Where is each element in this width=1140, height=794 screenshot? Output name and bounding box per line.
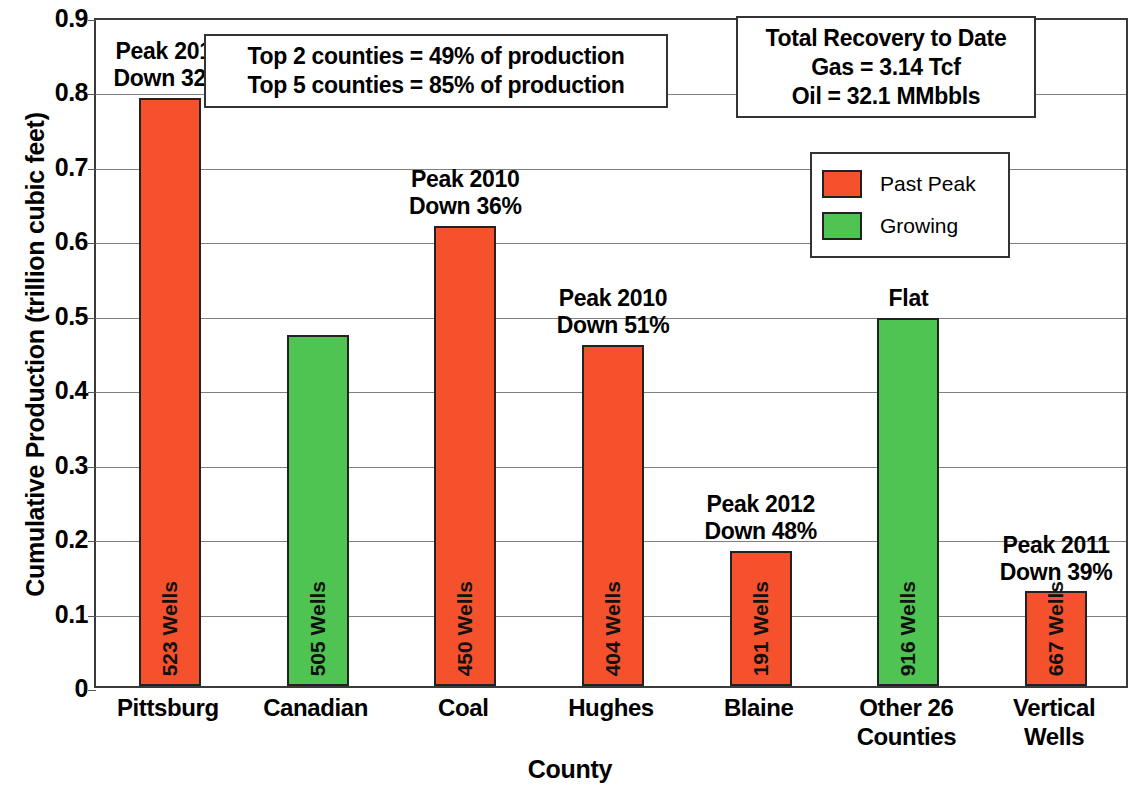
x-tick-line1: Canadian <box>242 694 390 723</box>
bar[interactable]: 191 Wells <box>730 551 792 686</box>
y-axis-tick-mark <box>88 616 96 617</box>
bar-annotation-line2: Down 36% <box>409 193 522 220</box>
bar-annotation-line1: Peak 2010 <box>409 166 522 193</box>
y-axis-tick-label: 0.3 <box>6 450 88 479</box>
bar-wells-label: 450 Wells <box>453 581 477 676</box>
y-axis-tick-label: 0.5 <box>6 301 88 330</box>
x-tick-line2: Wells <box>980 723 1128 752</box>
y-axis-tick-mark <box>88 20 96 21</box>
bar-annotation-line2: Down 48% <box>704 518 817 545</box>
bar[interactable]: 523 Wells <box>139 98 201 686</box>
x-axis-tick-label: VerticalWells <box>980 694 1128 752</box>
annotation-counties-line1: Top 2 counties = 49% of production <box>218 42 654 71</box>
y-axis-tick-label: 0.4 <box>6 376 88 405</box>
bar-annotation: Peak 2012Down 48% <box>704 491 817 545</box>
bar-slot: 450 WellsPeak 2010Down 36% <box>391 20 539 686</box>
bar[interactable]: 916 Wells <box>877 318 939 687</box>
bar-wells-label: 523 Wells <box>158 581 182 676</box>
annotation-recovery-line1: Total Recovery to Date <box>750 24 1022 53</box>
y-axis-tick-mark <box>88 392 96 393</box>
bar-wells-text: 505 Wells <box>306 581 330 676</box>
legend-item-past-peak: Past Peak <box>822 163 998 205</box>
bar[interactable]: 505 Wells <box>287 335 349 686</box>
annotation-counties-share: Top 2 counties = 49% of production Top 5… <box>204 34 668 108</box>
bar-annotation: Peak 2010Down 36% <box>409 166 522 220</box>
legend-swatch-past-peak <box>822 170 862 198</box>
x-tick-line1: Hughes <box>537 694 685 723</box>
chart-page: Cumulative Production (trillion cubic fe… <box>0 0 1140 794</box>
y-axis-tick-label: 0.9 <box>6 4 88 33</box>
x-tick-line1: Vertical <box>980 694 1128 723</box>
y-axis-tick-label: 0 <box>6 674 88 703</box>
bar-wells-text: 667 Wells <box>1044 581 1068 676</box>
bar-wells-label: 916 Wells <box>896 581 920 676</box>
bar-slot: 523 WellsPeak 2012Down 32% <box>96 20 244 686</box>
chart-legend: Past Peak Growing <box>810 152 1010 258</box>
x-tick-line1: Coal <box>389 694 537 723</box>
bar-slot: 916 WellsFlat <box>835 20 983 686</box>
bar-annotation-line2: Down 39% <box>1000 559 1113 586</box>
y-axis-tick-mark <box>88 318 96 319</box>
x-axis-tick-label: Blaine <box>685 694 833 723</box>
annotation-total-recovery: Total Recovery to Date Gas = 3.14 Tcf Oi… <box>736 16 1036 118</box>
bar-annotation: Peak 2011Down 39% <box>1000 532 1113 586</box>
x-axis-tick-label: Coal <box>389 694 537 723</box>
y-axis-tick-label: 0.8 <box>6 78 88 107</box>
bar-series: 523 WellsPeak 2012Down 32%505 Wells450 W… <box>96 20 1126 686</box>
bar-wells-label: 505 Wells <box>306 581 330 676</box>
bar-slot: 191 WellsPeak 2012Down 48% <box>687 20 835 686</box>
y-axis-tick-mark <box>88 541 96 542</box>
x-tick-line1: Pittsburg <box>94 694 242 723</box>
bar-slot: 505 Wells <box>244 20 392 686</box>
y-axis-tick-label: 0.6 <box>6 227 88 256</box>
bar-wells-text: 191 Wells <box>749 581 773 676</box>
annotation-recovery-line2: Gas = 3.14 Tcf <box>750 53 1022 82</box>
bar-wells-label: 667 Wells <box>1044 581 1068 676</box>
bar-annotation-line2: Down 51% <box>557 312 670 339</box>
bar-slot: 404 WellsPeak 2010Down 51% <box>539 20 687 686</box>
bar-wells-text: 916 Wells <box>896 581 920 676</box>
x-tick-line1: Blaine <box>685 694 833 723</box>
y-axis-tick-label: 0.7 <box>6 152 88 181</box>
y-axis-tick-label: 0.1 <box>6 599 88 628</box>
bar-annotation-line1: Flat <box>889 285 929 312</box>
bar[interactable]: 667 Wells <box>1025 591 1087 686</box>
x-axis-tick-labels: PittsburgCanadianCoalHughesBlaineOther 2… <box>94 694 1128 758</box>
legend-label-growing: Growing <box>880 214 958 238</box>
y-axis-tick-mark <box>88 467 96 468</box>
plot-area: 523 WellsPeak 2012Down 32%505 Wells450 W… <box>94 18 1128 688</box>
bar-annotation-line1: Peak 2010 <box>557 285 670 312</box>
legend-item-growing: Growing <box>822 205 998 247</box>
bar[interactable]: 404 Wells <box>582 345 644 686</box>
annotation-counties-line2: Top 5 counties = 85% of production <box>218 71 654 100</box>
bar-annotation: Flat <box>889 285 929 312</box>
y-axis-tick-mark <box>88 243 96 244</box>
y-axis-tick-mark <box>88 690 96 691</box>
x-tick-line2: Counties <box>833 723 981 752</box>
x-axis-title: County <box>0 755 1140 784</box>
bar-annotation-line1: Peak 2011 <box>1000 532 1113 559</box>
y-axis-tick-label: 0.2 <box>6 525 88 554</box>
y-axis-tick-mark <box>88 169 96 170</box>
bar-wells-text: 523 Wells <box>158 581 182 676</box>
bar-annotation-line1: Peak 2012 <box>704 491 817 518</box>
x-axis-tick-label: Other 26Counties <box>833 694 981 752</box>
y-axis-tick-labels: 0.90.80.70.60.50.40.30.20.10 <box>0 0 88 794</box>
x-axis-tick-label: Pittsburg <box>94 694 242 723</box>
bar[interactable]: 450 Wells <box>434 226 496 686</box>
legend-swatch-growing <box>822 212 862 240</box>
bar-wells-label: 404 Wells <box>601 581 625 676</box>
bar-wells-text: 404 Wells <box>601 581 625 676</box>
bar-wells-text: 450 Wells <box>453 581 477 676</box>
bar-slot: 667 WellsPeak 2011Down 39% <box>982 20 1130 686</box>
y-axis-tick-mark <box>88 94 96 95</box>
bar-wells-label: 191 Wells <box>749 581 773 676</box>
annotation-recovery-line3: Oil = 32.1 MMbbls <box>750 82 1022 111</box>
legend-label-past-peak: Past Peak <box>880 172 976 196</box>
x-tick-line1: Other 26 <box>833 694 981 723</box>
bar-annotation: Peak 2010Down 51% <box>557 285 670 339</box>
x-axis-tick-label: Canadian <box>242 694 390 723</box>
x-axis-tick-label: Hughes <box>537 694 685 723</box>
